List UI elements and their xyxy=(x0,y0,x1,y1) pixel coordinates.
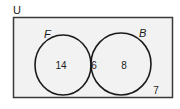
outside-value: 7 xyxy=(153,85,159,96)
universe-rect xyxy=(14,18,173,98)
venn-diagram: U F B 14 6 8 7 xyxy=(0,0,180,109)
set-b-label: B xyxy=(139,27,146,39)
f-only-value: 14 xyxy=(55,60,67,71)
b-only-value: 8 xyxy=(121,60,127,71)
intersection-value: 6 xyxy=(91,60,97,71)
universe-label: U xyxy=(13,4,21,16)
